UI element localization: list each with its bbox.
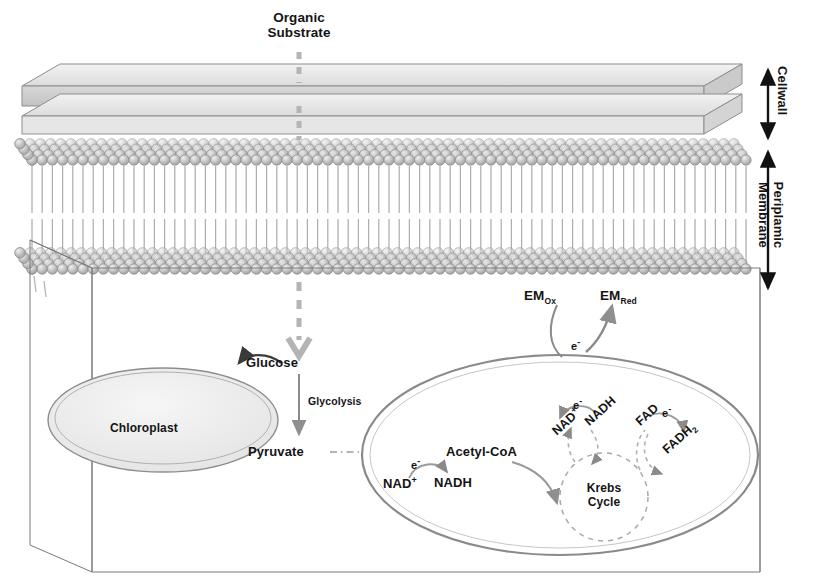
label-acetyl-coa: Acetyl-CoA (446, 444, 517, 459)
em-red-base: EM (600, 288, 620, 303)
label-nadh-cytosolic: NADH (434, 475, 472, 490)
label-krebs-cycle: Krebs Cycle (576, 481, 632, 509)
periplamic-line-1: Periplamic (771, 182, 786, 249)
e-sup-4: - (577, 337, 580, 347)
nad-cyto-sup: + (411, 475, 416, 485)
cellwall-slab-lower (22, 94, 742, 134)
label-electron-mito-nad: e- (573, 396, 582, 411)
diagram-canvas (0, 0, 827, 587)
krebs-line-2: Cycle (576, 495, 632, 509)
cell-diagram: Organic Substrate Cellwall Periplamic Me… (0, 0, 827, 587)
label-electron-mediator: e- (571, 337, 580, 352)
page-title: Organic Substrate (253, 10, 345, 40)
periplamic-line-2: Membrane (756, 182, 771, 248)
em-ox-sub: Ox (544, 296, 556, 306)
periplasmic-membrane (15, 139, 751, 297)
krebs-line-1: Krebs (576, 481, 632, 495)
label-glycolysis: Glycolysis (308, 395, 362, 407)
electron-mediator-arc (551, 305, 612, 357)
title-line-2: Substrate (253, 25, 345, 40)
e-sup-2: - (579, 396, 582, 406)
label-glucose: Glucose (246, 355, 298, 370)
e-sup-3: - (668, 404, 671, 414)
label-em-ox: EMOx (524, 288, 556, 306)
label-nad-plus-cytosolic: NAD+ (383, 475, 417, 491)
label-chloroplast: Chloroplast (110, 421, 178, 435)
em-ox-base: EM (524, 288, 544, 303)
label-pyruvate: Pyruvate (248, 444, 304, 459)
label-cellwall: Cellwall (775, 66, 790, 115)
nad-cyto-base: NAD (383, 476, 411, 491)
em-red-sub: Red (620, 296, 636, 306)
label-electron-fad: e- (662, 404, 671, 419)
label-em-red: EMRed (600, 288, 637, 306)
mitochondrion-organelle (362, 355, 758, 555)
label-electron-cytosolic: e- (411, 456, 420, 471)
chloroplast-organelle (48, 368, 278, 472)
e-sup-1: - (417, 456, 420, 466)
label-periplamic-membrane: Periplamic Membrane (756, 150, 786, 280)
title-line-1: Organic (253, 10, 345, 25)
